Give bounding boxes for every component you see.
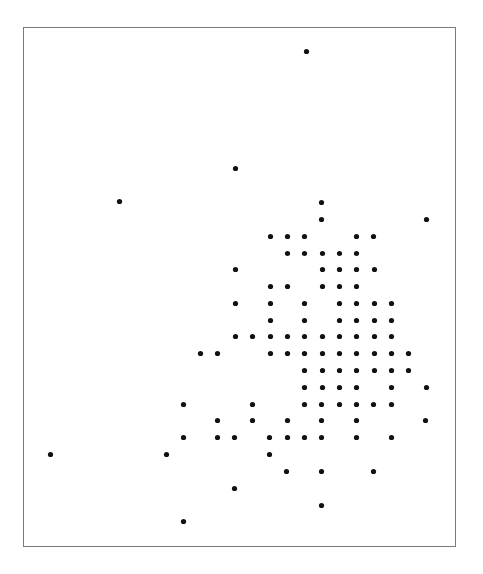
scatter-points-layer [24, 28, 455, 546]
data-point [302, 234, 307, 239]
data-point [232, 486, 237, 491]
data-point [372, 351, 377, 356]
data-point [406, 368, 411, 373]
data-point [233, 334, 238, 339]
data-point [233, 267, 238, 272]
data-point [337, 402, 342, 407]
data-point [320, 334, 325, 339]
data-point [302, 368, 307, 373]
data-point [354, 418, 359, 423]
data-point [285, 351, 290, 356]
data-point [354, 318, 359, 323]
data-point [304, 49, 309, 54]
data-point [389, 402, 394, 407]
data-point [371, 402, 376, 407]
data-point [372, 267, 377, 272]
data-point [372, 318, 377, 323]
data-point [181, 435, 186, 440]
data-point [337, 334, 342, 339]
data-point [285, 251, 290, 256]
data-point [371, 234, 376, 239]
data-point [424, 217, 429, 222]
data-point [232, 435, 237, 440]
data-point [302, 301, 307, 306]
data-point [354, 234, 359, 239]
data-point [198, 351, 203, 356]
data-point [389, 334, 394, 339]
data-point [354, 267, 359, 272]
data-point [268, 351, 273, 356]
data-point [319, 402, 324, 407]
data-point [302, 385, 307, 390]
data-point [389, 301, 394, 306]
data-point [337, 351, 342, 356]
data-point [337, 385, 342, 390]
data-point [250, 334, 255, 339]
data-point [319, 418, 324, 423]
data-point [372, 301, 377, 306]
data-point [250, 418, 255, 423]
data-point [302, 435, 307, 440]
data-point [284, 469, 289, 474]
data-point [354, 301, 359, 306]
data-point [215, 435, 220, 440]
data-point [302, 351, 307, 356]
data-point [320, 351, 325, 356]
data-point [268, 284, 273, 289]
data-point [423, 418, 428, 423]
data-point [319, 469, 324, 474]
data-point [354, 284, 359, 289]
data-point [424, 385, 429, 390]
data-point [354, 435, 359, 440]
data-point [267, 452, 272, 457]
data-point [302, 334, 307, 339]
data-point [302, 318, 307, 323]
data-point [267, 435, 272, 440]
data-point [233, 301, 238, 306]
data-point [285, 418, 290, 423]
data-point [354, 402, 359, 407]
data-point [285, 234, 290, 239]
data-point [268, 318, 273, 323]
data-point [337, 267, 342, 272]
data-point [181, 519, 186, 524]
data-point [337, 318, 342, 323]
data-point [320, 267, 325, 272]
data-point [215, 351, 220, 356]
data-point [215, 418, 220, 423]
data-point [320, 284, 325, 289]
data-point [117, 199, 122, 204]
data-point [302, 402, 307, 407]
data-point [406, 351, 411, 356]
data-point [337, 284, 342, 289]
data-point [319, 200, 324, 205]
data-point [268, 234, 273, 239]
data-point [354, 385, 359, 390]
data-point [285, 334, 290, 339]
data-point [337, 251, 342, 256]
data-point [181, 402, 186, 407]
data-point [337, 368, 342, 373]
data-point [250, 402, 255, 407]
data-point [319, 435, 324, 440]
data-point [320, 368, 325, 373]
data-point [372, 334, 377, 339]
data-point [319, 503, 324, 508]
data-point [268, 334, 273, 339]
data-point [372, 368, 377, 373]
data-point [354, 351, 359, 356]
data-point [233, 166, 238, 171]
data-point [285, 284, 290, 289]
data-point [389, 368, 394, 373]
data-point [354, 368, 359, 373]
data-point [285, 435, 290, 440]
data-point [389, 435, 394, 440]
data-point [389, 318, 394, 323]
data-point [302, 251, 307, 256]
data-point [268, 301, 273, 306]
data-point [389, 351, 394, 356]
data-point [389, 385, 394, 390]
data-point [337, 301, 342, 306]
data-point [164, 452, 169, 457]
data-point [371, 469, 376, 474]
